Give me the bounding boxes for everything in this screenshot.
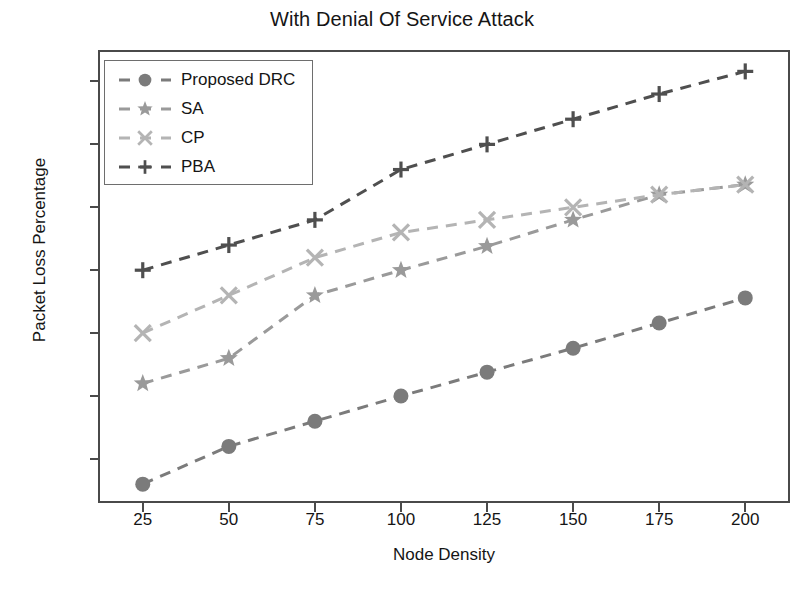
x-tick-label: 200 bbox=[715, 510, 775, 530]
data-point-circle-icon bbox=[738, 290, 753, 305]
legend-marker-circle-icon bbox=[117, 70, 173, 90]
data-point-circle-icon bbox=[139, 73, 152, 86]
legend-label: CP bbox=[181, 128, 205, 148]
y-tick-mark bbox=[90, 143, 99, 145]
y-tick-mark bbox=[90, 458, 99, 460]
legend-marker-x-icon bbox=[117, 128, 173, 148]
x-tick-label: 175 bbox=[629, 510, 689, 530]
x-tick-label: 25 bbox=[113, 510, 173, 530]
x-tick-label: 75 bbox=[285, 510, 345, 530]
series-sa bbox=[134, 175, 755, 391]
data-point-plus-icon bbox=[737, 63, 753, 79]
data-point-plus-icon bbox=[565, 111, 581, 127]
data-point-x-icon bbox=[307, 250, 323, 266]
data-point-plus-icon bbox=[221, 237, 237, 253]
data-point-x-icon bbox=[135, 325, 151, 341]
y-tick-mark bbox=[90, 269, 99, 271]
data-point-circle-icon bbox=[480, 365, 495, 380]
y-tick-mark bbox=[90, 80, 99, 82]
x-tick-label: 125 bbox=[457, 510, 517, 530]
x-axis-label: Node Density bbox=[98, 545, 790, 565]
data-point-x-icon bbox=[393, 224, 409, 240]
y-tick-mark bbox=[90, 206, 99, 208]
data-point-star-icon bbox=[392, 261, 410, 278]
data-point-circle-icon bbox=[393, 389, 408, 404]
x-tick-label: 50 bbox=[199, 510, 259, 530]
y-tick-mark bbox=[90, 332, 99, 334]
data-point-star-icon bbox=[137, 100, 152, 115]
legend-item-sa[interactable]: SA bbox=[105, 94, 312, 123]
legend-item-proposed-drc[interactable]: Proposed DRC bbox=[105, 65, 312, 94]
legend-label: Proposed DRC bbox=[181, 70, 295, 90]
data-point-plus-icon bbox=[138, 160, 152, 174]
data-point-x-icon bbox=[221, 287, 237, 303]
chart-figure: With Denial Of Service Attack Packet Los… bbox=[0, 0, 804, 601]
series-line bbox=[143, 185, 745, 384]
series-proposed-drc bbox=[135, 290, 752, 491]
data-point-circle-icon bbox=[307, 414, 322, 429]
data-point-star-icon bbox=[134, 374, 152, 391]
y-tick-mark bbox=[90, 395, 99, 397]
data-point-plus-icon bbox=[393, 162, 409, 178]
x-tick-label: 150 bbox=[543, 510, 603, 530]
legend-marker-plus-icon bbox=[117, 157, 173, 177]
x-tick-label: 100 bbox=[371, 510, 431, 530]
legend-item-cp[interactable]: CP bbox=[105, 123, 312, 152]
legend-label: SA bbox=[181, 99, 204, 119]
legend-marker-star-icon bbox=[117, 99, 173, 119]
legend-label: PBA bbox=[181, 157, 215, 177]
data-point-circle-icon bbox=[135, 477, 150, 492]
data-point-circle-icon bbox=[566, 341, 581, 356]
data-point-circle-icon bbox=[221, 439, 236, 454]
data-point-star-icon bbox=[478, 237, 496, 254]
data-point-circle-icon bbox=[652, 316, 667, 331]
data-point-plus-icon bbox=[135, 262, 151, 278]
data-point-star-icon bbox=[306, 286, 324, 303]
chart-legend: Proposed DRC SA CP PBA bbox=[104, 60, 313, 185]
data-point-star-icon bbox=[220, 349, 238, 366]
data-point-plus-icon bbox=[651, 86, 667, 102]
data-point-plus-icon bbox=[307, 212, 323, 228]
legend-item-pba[interactable]: PBA bbox=[105, 152, 312, 181]
data-point-plus-icon bbox=[479, 136, 495, 152]
